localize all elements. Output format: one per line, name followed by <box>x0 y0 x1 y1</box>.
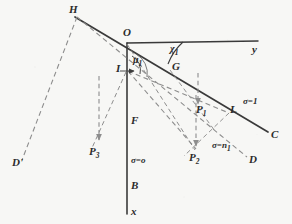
point-label-D: D <box>249 154 257 165</box>
interface-line-hc <box>75 17 268 132</box>
point-label-L: L <box>230 104 237 115</box>
axis-label-y: y <box>252 44 257 55</box>
angle-label-chi-one: χ1 <box>170 44 178 57</box>
point-label-F: F <box>131 115 138 126</box>
point-label-H: H <box>69 4 78 15</box>
point-label-P1-base: P <box>196 103 203 115</box>
dashed-line-group <box>22 17 247 160</box>
sigma-label-one: σ=1 <box>243 97 257 106</box>
point-label-P2: P2 <box>189 152 199 166</box>
sigma-zero-text: σ=o <box>131 155 145 165</box>
sigma-one-text: σ=1 <box>243 96 257 106</box>
point-label-P2-sub: 2 <box>196 157 200 166</box>
ray-i-to-l <box>128 71 229 113</box>
point-label-B: B <box>131 180 138 191</box>
point-label-P3: P3 <box>89 146 99 160</box>
ray-h-to-dprime <box>22 17 77 160</box>
point-label-G: G <box>172 61 180 72</box>
angle-sub-mu: 1 <box>139 59 143 68</box>
sigma-label-n1: σ=n1 <box>212 141 231 152</box>
point-label-P3-base: P <box>89 145 96 157</box>
sigma-label-zero: σ=o <box>131 156 145 165</box>
angle-sub-chi: 1 <box>175 48 179 57</box>
sigma-n1-text: σ=n <box>212 140 227 150</box>
point-label-D-prime: D' <box>12 157 23 168</box>
ray-i-to-p3 <box>92 72 126 148</box>
sigma-n1-sub: 1 <box>227 144 231 153</box>
axis-label-x: x <box>131 206 137 217</box>
point-label-P3-sub: 3 <box>96 151 100 160</box>
connector-g-p1 <box>170 70 215 131</box>
point-label-C: C <box>271 129 278 140</box>
point-label-P1-sub: 1 <box>203 109 207 118</box>
figure-canvas <box>0 0 292 224</box>
point-label-P1: P1 <box>196 104 206 118</box>
geometry-figure: H O I G F B x y L C D D' P1 P2 P3 χ1 μ1 … <box>0 0 292 224</box>
point-label-O: O <box>123 27 131 38</box>
point-label-I: I <box>116 63 120 74</box>
axis-line-y <box>127 41 258 43</box>
angle-label-mu-one: μ1 <box>133 55 142 68</box>
point-label-P2-base: P <box>189 151 196 163</box>
ray-h-to-d <box>77 17 247 157</box>
